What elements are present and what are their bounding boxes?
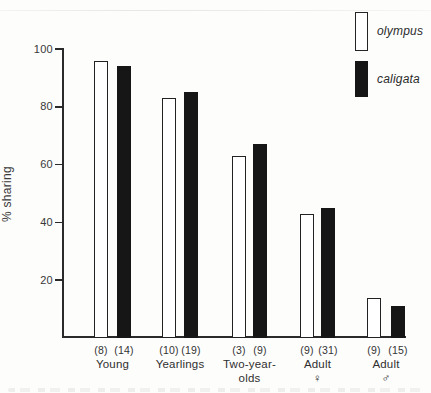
sample-size-caligata-3: (31) bbox=[310, 344, 346, 356]
legend-swatch-olympus bbox=[355, 12, 368, 51]
y-tick-label-20: 20 bbox=[20, 274, 53, 286]
scan-artifact-top-line bbox=[0, 10, 431, 11]
bar-caligata-0 bbox=[117, 66, 131, 338]
y-axis-title: % sharing bbox=[0, 159, 16, 229]
cropped-caption-remnant bbox=[8, 388, 422, 392]
y-tick-label-60: 60 bbox=[20, 158, 53, 170]
bar-olympus-2 bbox=[232, 156, 246, 338]
bar-caligata-4 bbox=[391, 306, 405, 338]
y-tick-label-80: 80 bbox=[20, 100, 53, 112]
bar-olympus-3 bbox=[300, 214, 314, 338]
y-tick-60 bbox=[55, 164, 62, 166]
sample-size-caligata-1: (19) bbox=[173, 344, 209, 356]
bar-olympus-1 bbox=[162, 98, 176, 338]
y-tick-label-100: 100 bbox=[20, 43, 53, 55]
legend-label-caligata: caligata bbox=[377, 72, 420, 86]
bar-caligata-1 bbox=[184, 92, 198, 338]
y-tick-80 bbox=[55, 106, 62, 108]
sample-size-caligata-0: (14) bbox=[106, 344, 142, 356]
y-tick-20 bbox=[55, 279, 62, 281]
bar-olympus-4 bbox=[367, 298, 381, 338]
y-tick-100 bbox=[55, 48, 62, 50]
legend-swatch-caligata bbox=[355, 61, 368, 97]
sample-size-caligata-2: (9) bbox=[242, 344, 278, 356]
category-label-4-line-1: ♂ bbox=[341, 372, 431, 384]
y-tick-label-40: 40 bbox=[20, 216, 53, 228]
category-label-4-line-0: Adult bbox=[341, 358, 431, 370]
sample-size-caligata-4: (15) bbox=[380, 344, 416, 356]
legend-label-olympus: olympus bbox=[377, 24, 423, 38]
bar-caligata-2 bbox=[253, 144, 267, 338]
y-axis-line bbox=[62, 48, 64, 338]
y-tick-40 bbox=[55, 222, 62, 224]
bar-caligata-3 bbox=[321, 208, 335, 338]
figure-scan-page: olympus caligata % sharing 20406080100(8… bbox=[0, 0, 431, 393]
bar-olympus-0 bbox=[94, 61, 108, 338]
